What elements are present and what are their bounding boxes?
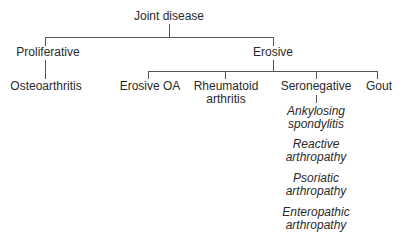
rheumatoid-line2: arthritis [194,93,259,106]
node-gout: Gout [366,80,392,93]
node-erosive-oa: Erosive OA [120,80,181,93]
node-seronegative: Seronegative [281,80,352,93]
proliferative-stem [45,60,46,79]
node-enteropathic-arthropathy: Enteropathic arthropathy [282,206,349,232]
node-joint-disease: Joint disease [134,10,204,23]
label-line2: arthropathy [286,185,347,198]
seronegative-drop [316,71,317,79]
rheumatoid-drop [225,71,226,79]
level1-bar [45,37,274,38]
node-psoriatic-arthropathy: Psoriatic arthropathy [286,172,347,198]
root-stem [169,24,170,38]
node-proliferative: Proliferative [16,46,79,59]
label-line2: arthropathy [286,151,347,164]
node-reactive-arthropathy: Reactive arthropathy [286,138,347,164]
erosive-oa-drop [148,71,149,79]
erosive-stem [273,60,274,71]
node-osteoarthritis: Osteoarthritis [10,80,81,93]
node-ankylosing-spondylitis: Ankylosing spondylitis [287,105,345,131]
label-line2: spondylitis [287,118,345,131]
seronegative-stem [316,95,317,103]
label-line2: arthropathy [282,219,349,232]
node-rheumatoid-arthritis: Rheumatoid arthritis [194,80,259,106]
gout-drop [377,71,378,79]
level2-bar [148,71,378,72]
node-erosive: Erosive [253,46,293,59]
